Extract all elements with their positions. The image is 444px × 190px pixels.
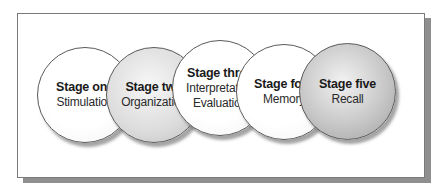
stage-five-circle: Stage five Recall (299, 43, 396, 140)
stage-five-label: Recall (331, 92, 363, 107)
stage-five-title: Stage five (319, 77, 376, 92)
stage-one-label: Stimulation (56, 95, 113, 110)
